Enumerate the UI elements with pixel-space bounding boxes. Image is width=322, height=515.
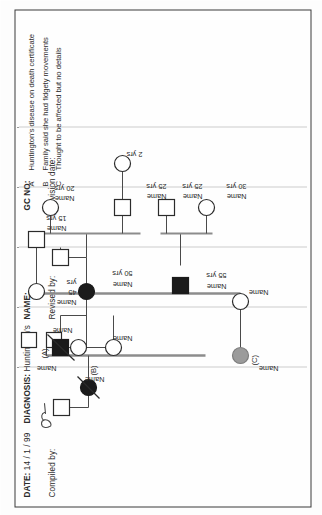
individual-III-2-male-unaffected (52, 249, 68, 265)
individual-II-3-female-possible (232, 347, 248, 363)
caption-III-5-name: Name (46, 223, 66, 232)
pedigree-chart-screenshot: DATE: 14 / 1 / 99 DIAGNOSIS: Huntington'… (0, 0, 322, 515)
legend-text-b: Family said she had fidgety movements (40, 37, 49, 170)
caption-IV-2-age: 25 yrs (146, 181, 166, 190)
caption-III-5-age: 15 yrs (46, 213, 66, 222)
legend-item-c: C Thought to be affected but no details (53, 16, 62, 186)
caption-II-3-name: Name (258, 363, 278, 372)
caption-I-2-name: Name (84, 374, 104, 383)
caption-III-4-age: 45 (68, 287, 76, 296)
legend-item-b: B Family said she had fidgety movements (40, 16, 49, 186)
legend-item-a: A Huntington's disease on death certific… (26, 16, 35, 186)
individual-III-3-male-affected (172, 277, 188, 293)
caption-II-upper-name: Name (36, 363, 56, 372)
individual-III-5-male-unaffected (28, 231, 44, 247)
caption-III-4-age-unit: yrs (66, 277, 76, 286)
individual-IV-2-male-unaffected (114, 199, 130, 215)
caption-IV-3-name: Name (182, 191, 202, 200)
note-a-label: (A) (39, 347, 48, 358)
individual-II-upper-female-3 (70, 339, 86, 355)
legend-text-c: Thought to be affected but no details (53, 47, 62, 170)
caption-II-1-name: Name (52, 325, 72, 334)
paper-sheet: DATE: 14 / 1 / 99 DIAGNOSIS: Huntington'… (0, 0, 322, 515)
legend-key-c: C (53, 179, 62, 186)
note-c-label: (C) (249, 354, 258, 365)
individual-II-4-female-unaffected (232, 293, 248, 309)
caption-III-3-age: 55 yrs (206, 270, 226, 279)
caption-IV-1-name: Name (54, 193, 74, 202)
legend-key-a: A (26, 179, 35, 186)
caption-IV-5-age: 2 yrs (126, 149, 142, 158)
caption-IV-4-name: Name (226, 191, 246, 200)
caption-IV-4-age: 30 yrs (226, 181, 246, 190)
caption-IV-2-name: Name (146, 191, 166, 200)
caption-III-1-name: Name (112, 279, 132, 288)
legend: A Huntington's disease on death certific… (26, 16, 67, 186)
caption-III-4-name: Name (56, 297, 76, 306)
caption-II-4-name: Name (248, 287, 268, 296)
legend-text-a: Huntington's disease on death certificat… (26, 33, 35, 170)
rotated-sheet: DATE: 14 / 1 / 99 DIAGNOSIS: Huntington'… (0, 0, 322, 515)
caption-II-2-name: Name (112, 333, 132, 342)
caption-IV-3-age: 25 yrs (182, 181, 202, 190)
individual-III-1-female-affected (78, 283, 94, 299)
individual-I-1-male-unaffected (53, 399, 69, 415)
caption-III-1-age: 50 yrs (112, 268, 132, 277)
legend-key-b: B (40, 179, 49, 186)
caption-III-3-name: Name (206, 281, 226, 290)
note-b-label: (B) (88, 364, 97, 375)
individual-II-upper-male-1 (21, 332, 36, 347)
individual-III-4-female-unaffected (28, 283, 44, 299)
